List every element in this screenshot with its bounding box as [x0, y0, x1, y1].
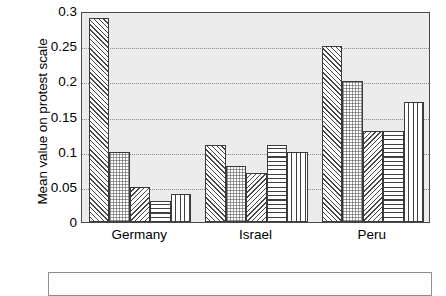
- y-tick-label: 0.2: [33, 75, 77, 89]
- plot-inner: [82, 13, 429, 222]
- y-tick-label: 0.15: [33, 111, 77, 125]
- legend-box: [48, 272, 432, 296]
- bar: [267, 145, 288, 222]
- bar: [109, 152, 130, 222]
- y-tick-label: 0.1: [33, 146, 77, 160]
- bar: [246, 173, 267, 222]
- y-tick-label: 0.25: [33, 40, 77, 54]
- bar: [342, 81, 363, 222]
- gridline: [82, 119, 429, 120]
- plot-area: [81, 12, 430, 223]
- x-tick-label: Israel: [197, 227, 313, 242]
- bar: [383, 131, 404, 222]
- bar: [171, 194, 192, 222]
- bar: [205, 145, 226, 222]
- bar: [287, 152, 308, 222]
- gridline: [82, 83, 429, 84]
- y-tick-label: 0: [33, 216, 77, 230]
- bar: [226, 166, 247, 222]
- bar: [89, 18, 110, 222]
- bar: [130, 187, 151, 222]
- y-axis-tick-labels: 00.050.10.150.20.250.3: [29, 0, 77, 283]
- y-tick-label: 0.3: [33, 5, 77, 19]
- x-tick-label: Peru: [314, 227, 430, 242]
- x-tick-label: Germany: [81, 227, 197, 242]
- y-tick-label: 0.05: [33, 181, 77, 195]
- bar: [404, 102, 425, 222]
- gridline: [82, 48, 429, 49]
- bar: [150, 201, 171, 222]
- bar: [363, 131, 384, 222]
- bar: [322, 46, 343, 222]
